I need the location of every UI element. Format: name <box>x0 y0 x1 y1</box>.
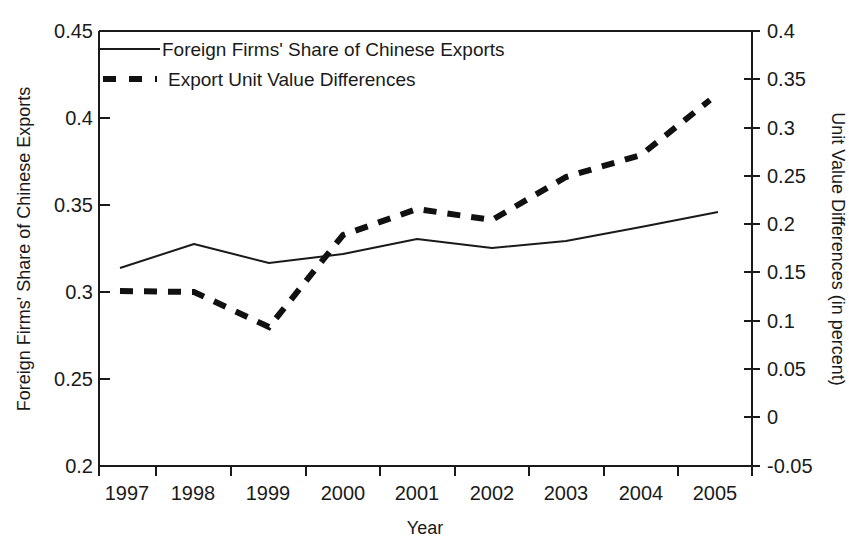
series-foreign-firms-share-line <box>120 212 718 268</box>
y-left-tick-label-3: 0.3 <box>65 281 93 303</box>
y-right-tick-label-3: 0.25 <box>767 165 806 187</box>
x-tick-label-1999: 1999 <box>246 482 291 504</box>
x-tick-label-2000: 2000 <box>321 482 366 504</box>
y-right-tick-label-8: 0 <box>767 406 778 428</box>
y-right-tick-label-5: 0.15 <box>767 261 806 283</box>
y-right-tick-label-9: -0.05 <box>767 455 813 477</box>
y-right-tick-label-7: 0.05 <box>767 358 806 380</box>
y-left-axis-title: Foreign Firms' Share of Chinese Exports <box>14 87 34 412</box>
legend-label-foreign-firms-share: Foreign Firms' Share of Chinese Exports <box>162 39 505 60</box>
x-tick-label-2004: 2004 <box>619 482 664 504</box>
x-axis-ticks <box>99 466 752 476</box>
y-right-axis-title: Unit Value Differences (in percent) <box>828 112 848 385</box>
y-right-tick-label-6: 0.1 <box>767 310 795 332</box>
y-right-tick-label-2: 0.3 <box>767 117 795 139</box>
x-axis-title: Year <box>407 518 443 538</box>
x-tick-label-1997: 1997 <box>105 482 150 504</box>
left-axis-ticks <box>99 31 110 466</box>
x-tick-label-2003: 2003 <box>544 482 589 504</box>
y-left-tick-label-4: 0.25 <box>54 368 93 390</box>
x-tick-label-2001: 2001 <box>395 482 440 504</box>
y-right-tick-label-1: 0.35 <box>767 68 806 90</box>
y-left-tick-label-0: 0.45 <box>54 20 93 42</box>
chart-figure: 0.45 0.4 0.35 0.3 0.25 0.2 0.4 0.35 0.3 … <box>0 0 849 549</box>
series-export-unit-value-differences-line <box>120 100 710 327</box>
x-tick-label-2002: 2002 <box>470 482 515 504</box>
y-right-tick-label-4: 0.2 <box>767 213 795 235</box>
line-chart-svg: 0.45 0.4 0.35 0.3 0.25 0.2 0.4 0.35 0.3 … <box>0 0 849 549</box>
chart-legend: Foreign Firms' Share of Chinese Exports … <box>100 39 505 90</box>
y-right-tick-label-0: 0.4 <box>767 20 795 42</box>
x-tick-label-2005: 2005 <box>693 482 738 504</box>
y-left-tick-label-2: 0.35 <box>54 194 93 216</box>
y-left-tick-label-1: 0.4 <box>65 107 93 129</box>
x-tick-label-1998: 1998 <box>171 482 216 504</box>
legend-label-export-unit-value-differences: Export Unit Value Differences <box>168 69 415 90</box>
y-left-tick-label-5: 0.2 <box>65 455 93 477</box>
